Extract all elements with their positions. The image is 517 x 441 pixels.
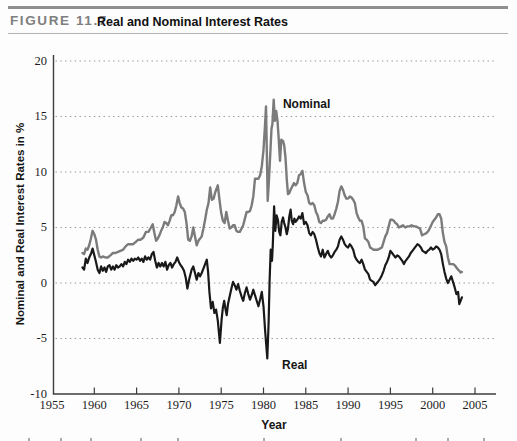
y-tick-label: 15 <box>12 109 47 124</box>
series-label-nominal: Nominal <box>283 97 330 111</box>
x-tick-label: 1985 <box>286 398 326 412</box>
x-tick-label: 1965 <box>117 398 157 412</box>
textbook-figure-page: FIGURE 11.7 Real and Nominal Interest Ra… <box>0 0 517 441</box>
x-axis-title: Year <box>261 418 286 432</box>
x-tick-label: 1980 <box>244 398 284 412</box>
x-tick-label: 2005 <box>455 398 495 412</box>
x-tick-label: 2000 <box>413 398 453 412</box>
y-tick-label: 0 <box>12 276 47 291</box>
x-tick-label: 1975 <box>201 398 241 412</box>
x-tick-label: 1970 <box>159 398 199 412</box>
x-tick-label: 1955 <box>32 398 72 412</box>
y-tick-label: 10 <box>12 165 47 180</box>
x-tick-label: 1960 <box>74 398 114 412</box>
y-tick-label: 20 <box>12 54 47 69</box>
interest-rates-chart <box>0 0 517 441</box>
y-tick-label: 5 <box>12 220 47 235</box>
x-tick-label: 1990 <box>328 398 368 412</box>
y-tick-label: -5 <box>12 331 47 346</box>
x-tick-label: 1995 <box>370 398 410 412</box>
series-label-real: Real <box>282 358 307 372</box>
